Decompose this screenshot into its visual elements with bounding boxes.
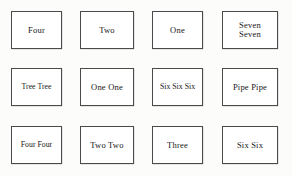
label-box-text: Six Six Six bbox=[158, 82, 197, 92]
label-box-r3c1[interactable]: Four Four bbox=[11, 126, 62, 164]
label-box-r2c3[interactable]: Six Six Six bbox=[152, 68, 203, 106]
label-box-r1c4[interactable]: Seven Seven bbox=[222, 11, 278, 49]
label-box-text: One One bbox=[89, 82, 125, 92]
label-box-text: Two Two bbox=[88, 140, 125, 150]
label-row-2: Tree Tree One One Six Six Six Pipe Pipe bbox=[0, 68, 292, 106]
label-box-r2c2[interactable]: One One bbox=[80, 68, 134, 106]
label-box-text: Two bbox=[97, 25, 117, 35]
label-box-r1c2[interactable]: Two bbox=[80, 11, 134, 49]
label-box-r1c3[interactable]: One bbox=[152, 11, 203, 49]
label-box-r1c1[interactable]: Four bbox=[11, 11, 62, 49]
label-box-r2c4[interactable]: Pipe Pipe bbox=[222, 68, 278, 106]
label-grid-sheet: Four Two One Seven Seven Tree Tree One O… bbox=[0, 0, 292, 176]
label-box-text: Seven Seven bbox=[237, 21, 263, 40]
label-box-text: Four bbox=[26, 25, 47, 35]
label-box-text: Tree Tree bbox=[20, 82, 54, 92]
label-box-text: Pipe Pipe bbox=[231, 82, 269, 92]
label-row-3: Four Four Two Two Three Six Six bbox=[0, 126, 292, 164]
label-box-r2c1[interactable]: Tree Tree bbox=[11, 68, 62, 106]
label-box-r3c4[interactable]: Six Six bbox=[222, 126, 278, 164]
label-box-text: Six Six bbox=[235, 140, 265, 150]
label-box-r3c2[interactable]: Two Two bbox=[80, 126, 134, 164]
label-row-1: Four Two One Seven Seven bbox=[0, 11, 292, 49]
label-box-r3c3[interactable]: Three bbox=[152, 126, 203, 164]
label-box-text: Four Four bbox=[19, 140, 54, 150]
label-box-text: Three bbox=[165, 140, 190, 150]
label-box-text: One bbox=[168, 25, 187, 35]
